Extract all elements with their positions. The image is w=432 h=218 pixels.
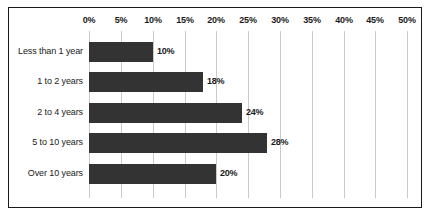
x-tick-label-40: 40% bbox=[335, 15, 352, 25]
x-tick-label-20: 20% bbox=[207, 15, 224, 25]
category-label-0: Less than 1 year bbox=[18, 46, 83, 56]
bar-value-1-to-2-years: 18% bbox=[207, 76, 224, 86]
x-tick-label-15: 15% bbox=[176, 15, 193, 25]
bar-value-5-to-10-years: 28% bbox=[271, 137, 288, 147]
gridline-50 bbox=[407, 31, 408, 198]
x-tick-label-35: 35% bbox=[303, 15, 320, 25]
bar-value-less-than-1-year: 10% bbox=[157, 46, 174, 56]
x-tick-label-25: 25% bbox=[239, 15, 256, 25]
bar-1-to-2-years bbox=[89, 72, 203, 92]
bar-over-10-years bbox=[89, 164, 216, 184]
x-tick-label-45: 45% bbox=[366, 15, 383, 25]
x-tick-label-0: 0% bbox=[83, 15, 96, 25]
bar-5-to-10-years bbox=[89, 133, 267, 153]
bar-2-to-4-years bbox=[89, 103, 242, 123]
category-label-4: Over 10 years bbox=[28, 168, 83, 178]
gridline-40 bbox=[344, 31, 345, 198]
bar-less-than-1-year bbox=[89, 42, 153, 62]
x-tick-label-50: 50% bbox=[398, 15, 415, 25]
category-label-3: 5 to 10 years bbox=[32, 137, 83, 147]
category-label-2: 2 to 4 years bbox=[37, 107, 83, 117]
gridline-30 bbox=[280, 31, 281, 198]
gridline-45 bbox=[375, 31, 376, 198]
bar-chart: 0% 5% 10% 15% 20% 25% 30% 35% 40% 45% 50… bbox=[0, 0, 432, 218]
x-tick-label-30: 30% bbox=[271, 15, 288, 25]
gridline-35 bbox=[312, 31, 313, 198]
category-label-1: 1 to 2 years bbox=[37, 76, 83, 86]
bar-value-over-10-years: 20% bbox=[220, 168, 237, 178]
x-tick-label-10: 10% bbox=[144, 15, 161, 25]
x-tick-label-5: 5% bbox=[115, 15, 128, 25]
plot-area: 0% 5% 10% 15% 20% 25% 30% 35% 40% 45% 50… bbox=[0, 0, 432, 218]
bar-value-2-to-4-years: 24% bbox=[246, 107, 263, 117]
